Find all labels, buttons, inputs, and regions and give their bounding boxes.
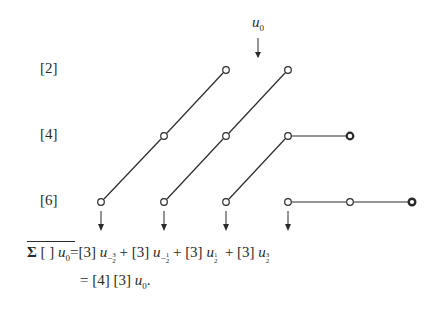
down-arrows (101, 211, 288, 229)
row-label-2: [2] (40, 60, 58, 77)
sum-overline (27, 241, 75, 242)
node-bold (347, 133, 354, 140)
equation-line-1: Σ [ ] u0=[3] u−32 + [3] u−12 + [3] u12 +… (27, 244, 269, 264)
diagonal-edges (104, 73, 285, 199)
node-bold (409, 199, 416, 206)
row-label-4: [4] (40, 126, 58, 143)
node (285, 133, 292, 140)
u0-label: u0 (252, 14, 264, 33)
node (98, 199, 105, 206)
row-label-6: [6] (40, 192, 58, 209)
node (223, 67, 230, 74)
node (285, 67, 292, 74)
nodes (98, 67, 416, 206)
node (161, 133, 168, 140)
node (223, 133, 230, 140)
horizontal-edges (292, 136, 408, 202)
node (285, 199, 292, 206)
node (223, 199, 230, 206)
node (347, 199, 354, 206)
node (161, 199, 168, 206)
equation-line-2: = [4] [3] u0. (80, 272, 150, 291)
